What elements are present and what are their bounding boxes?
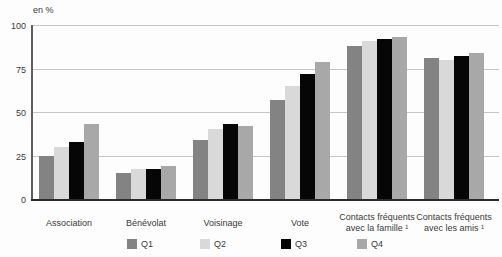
bar-chart: en % 0255075100 AssociationBénévolatVois… <box>0 0 502 257</box>
x-axis-line <box>31 199 499 201</box>
bar-q4-group1 <box>84 124 99 199</box>
bar-q3-group2 <box>146 169 161 199</box>
legend-label: Q3 <box>295 239 307 249</box>
legend-label: Q4 <box>371 239 383 249</box>
y-tick-label: 100 <box>0 21 26 31</box>
category-label: Voisinage <box>180 210 266 236</box>
bar-q2-group3 <box>208 129 223 199</box>
bar-q3-group3 <box>223 124 238 199</box>
bar-q1-group5 <box>347 46 362 199</box>
category-label: Contacts fréquents avec la famille ¹ <box>334 210 420 236</box>
bar-q1-group6 <box>424 58 439 199</box>
category-label: Contacts fréquents avec les amis ¹ <box>411 210 497 236</box>
bar-q2-group5 <box>362 41 377 199</box>
y-tick-label: 0 <box>0 195 26 205</box>
bar-q2-group1 <box>54 147 69 199</box>
bar-q3-group4 <box>300 74 315 199</box>
category-label: Bénévolat <box>103 210 189 236</box>
bar-q1-group3 <box>193 140 208 199</box>
bar-q1-group4 <box>270 100 285 199</box>
bar-q1-group1 <box>39 156 54 200</box>
bar-q2-group2 <box>131 169 146 199</box>
y-tick-label: 25 <box>0 152 26 162</box>
category-label: Vote <box>257 210 343 236</box>
bar-q2-group6 <box>439 60 454 199</box>
bar-q4-group2 <box>161 166 176 199</box>
bar-q3-group5 <box>377 39 392 199</box>
bar-q4-group5 <box>392 37 407 199</box>
bar-q4-group3 <box>238 126 253 199</box>
bar-q1-group2 <box>116 173 131 199</box>
y-tick-label: 75 <box>0 65 26 75</box>
legend-swatch-q2 <box>200 239 210 249</box>
bar-q4-group6 <box>469 53 484 199</box>
category-label: Association <box>26 210 112 236</box>
bar-q2-group4 <box>285 86 300 199</box>
legend-swatch-q1 <box>127 239 137 249</box>
legend-label: Q2 <box>214 239 226 249</box>
legend-swatch-q3 <box>281 239 291 249</box>
y-axis-unit-label: en % <box>33 5 54 15</box>
bar-q4-group4 <box>315 62 330 199</box>
bar-q3-group6 <box>454 56 469 199</box>
bar-q3-group1 <box>69 142 84 199</box>
gridline-100 <box>32 25 499 26</box>
y-axis-line <box>31 25 33 199</box>
y-tick-label: 50 <box>0 108 26 118</box>
legend-swatch-q4 <box>357 239 367 249</box>
legend-label: Q1 <box>141 239 153 249</box>
